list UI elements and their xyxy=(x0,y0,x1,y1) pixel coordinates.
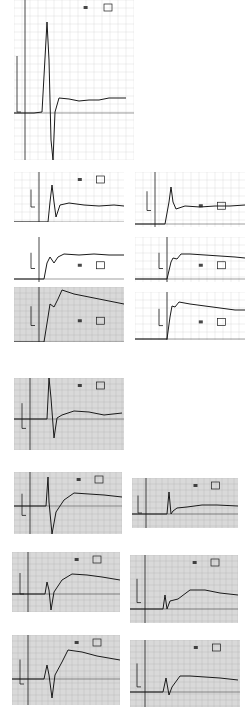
waveform-panel-p14 xyxy=(130,640,240,707)
waveform-panel-p12 xyxy=(130,555,238,623)
waveform-panel-p9 xyxy=(14,472,122,534)
waveform-panel-p7 xyxy=(135,292,245,340)
waveform-panel-p6 xyxy=(14,287,124,342)
waveform-panel-p3 xyxy=(135,172,245,227)
waveform-panel-p11 xyxy=(12,552,120,612)
waveform-panel-p1 xyxy=(14,0,134,160)
waveform-panel-p4 xyxy=(14,237,124,282)
waveform-panel-p2 xyxy=(14,172,124,222)
waveform-panel-p13 xyxy=(12,635,120,705)
waveform-panel-p5 xyxy=(135,237,245,282)
waveform-panel-p10 xyxy=(132,478,238,528)
waveform-panel-p8 xyxy=(14,378,124,450)
